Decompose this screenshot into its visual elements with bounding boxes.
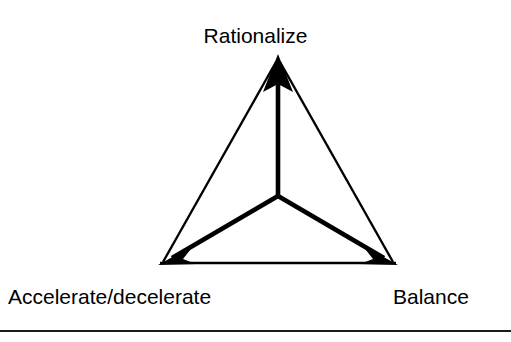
spoke-group	[172, 70, 384, 258]
node-label-rationalize: Rationalize	[0, 24, 511, 48]
figure-root: Rationalize Accelerate/decelerate Balanc…	[0, 0, 511, 342]
node-label-balance: Balance	[393, 285, 469, 309]
footer-divider	[0, 330, 511, 332]
node-label-accelerate-decelerate: Accelerate/decelerate	[8, 285, 211, 309]
arrowhead-accelerate-icon	[158, 245, 196, 265]
arrowhead-balance-icon	[360, 245, 398, 265]
